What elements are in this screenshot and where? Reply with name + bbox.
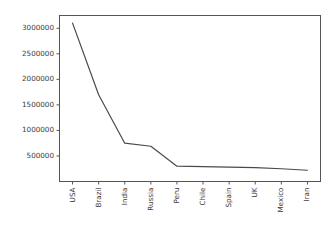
y-tick-label: 2500000 xyxy=(22,49,54,58)
x-tick-label: Chile xyxy=(198,187,207,206)
x-tick-label: Peru xyxy=(172,188,181,204)
x-tick-label: India xyxy=(120,188,129,206)
line-chart: 5000001000000150000020000002500000300000… xyxy=(0,0,335,233)
chart-figure: 5000001000000150000020000002500000300000… xyxy=(0,0,335,233)
y-tick-label: 1000000 xyxy=(22,125,54,134)
y-tick-label: 3000000 xyxy=(22,23,54,32)
x-tick-label: UK xyxy=(250,187,259,197)
y-tick-label: 500000 xyxy=(27,151,55,160)
y-tick-label: 2000000 xyxy=(22,74,54,83)
x-tick-label: Brazil xyxy=(94,188,103,208)
x-tick-label: Iran xyxy=(302,188,311,202)
x-tick-label: Russia xyxy=(146,188,155,211)
x-tick-label: USA xyxy=(68,187,77,202)
x-tick-label: Spain xyxy=(224,188,233,208)
y-tick-label: 1500000 xyxy=(22,100,54,109)
x-tick-label: Mexico xyxy=(276,188,285,213)
